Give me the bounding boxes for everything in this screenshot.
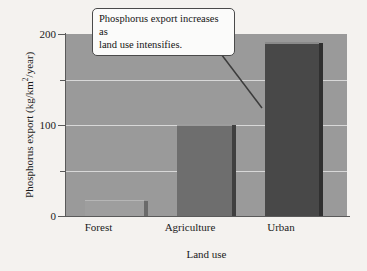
x-tick-label-agriculture: Agriculture: [144, 221, 236, 233]
y-tick-label-0: 0: [16, 211, 56, 222]
callout-line-2: land use intensifies.: [99, 38, 229, 51]
bar-urban-face: [265, 43, 319, 216]
bar-agriculture-top-edge: [177, 124, 232, 126]
bar-agriculture-face: [177, 125, 232, 216]
callout-line-1: Phosphorus export increases as: [99, 12, 229, 38]
x-axis-line: [60, 216, 350, 217]
x-tick-label-urban: Urban: [238, 221, 324, 233]
plot-area: [66, 34, 347, 216]
bar-forest-face: [85, 201, 144, 217]
callout-annotation: Phosphorus export increases as land use …: [92, 8, 235, 56]
bar-forest-top-edge: [85, 200, 144, 202]
y-tick-label-200: 200: [16, 29, 56, 40]
y-axis-line: [65, 33, 66, 217]
bar-agriculture[interactable]: [177, 125, 232, 216]
bar-forest[interactable]: [85, 201, 144, 217]
bar-forest-side: [144, 201, 148, 217]
y-tick-label-100: 100: [16, 120, 56, 131]
bar-urban-top-edge: [265, 42, 319, 44]
bar-urban-side: [319, 43, 323, 216]
phosphorus-export-bar-chart: Phosphorus export (kg/km2/year) 200 100 …: [0, 0, 367, 271]
x-tick-label-forest: Forest: [55, 221, 142, 233]
bar-agriculture-side: [232, 125, 236, 216]
y-axis-tick-labels: 200 100 0: [10, 0, 56, 271]
bar-urban[interactable]: [265, 43, 319, 216]
x-axis-label: Land use: [66, 248, 347, 260]
